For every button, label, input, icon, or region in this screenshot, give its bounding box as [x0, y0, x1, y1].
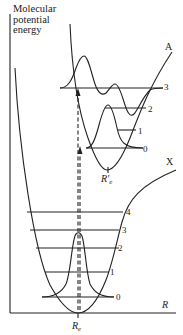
- excited-state-label: A: [165, 42, 172, 52]
- y-label-line-1: Molecular: [13, 4, 56, 15]
- a-level-0-label: 0: [143, 144, 148, 154]
- x-axis-label: R: [162, 300, 168, 310]
- re-sub: e: [78, 325, 81, 333]
- re-prime-label: R′e: [101, 174, 112, 187]
- y-label-line-3: energy: [13, 25, 56, 36]
- x-level-4-label: 4: [126, 207, 131, 217]
- a-level-3-label: 3: [164, 82, 169, 92]
- re-label: Re: [72, 321, 81, 334]
- a-level-2-label: 2: [148, 104, 153, 114]
- x-level-1-label: 1: [110, 267, 115, 277]
- y-axis-label: Molecular potential energy: [13, 4, 56, 36]
- a-level-1-label: 1: [138, 126, 143, 136]
- franck-condon-diagram: [0, 0, 183, 335]
- x-level-2-label: 2: [118, 243, 123, 253]
- ground-state-label: X: [166, 157, 173, 167]
- x-level-0-label: 0: [116, 292, 121, 302]
- re-prime-sub: e: [109, 178, 112, 186]
- x-level-3-label: 3: [122, 225, 127, 235]
